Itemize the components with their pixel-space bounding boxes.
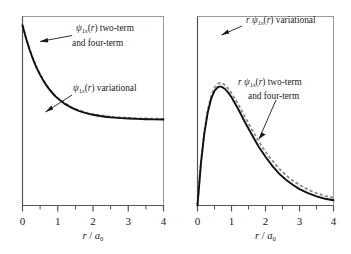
left-plot-panel: ψ1s(r) two-term and four-term ψ1s(r) var… [0,0,175,254]
right-x-major-ticks [198,206,334,212]
figure-root: ψ1s(r) two-term and four-term ψ1s(r) var… [0,0,351,254]
left-plot-svg: ψ1s(r) two-term and four-term ψ1s(r) var… [0,0,175,254]
left-xtick-1: 1 [55,215,61,227]
right-xtick-2: 2 [263,215,269,227]
right-anno-twoterm-line2: and four-term [248,91,300,101]
right-plot-panel: r ψ1s(r) variational r ψ1s(r) two-term a… [176,0,351,254]
left-xtick-2: 2 [90,215,96,227]
right-xtick-3: 3 [297,215,303,227]
left-x-major-ticks [23,206,164,212]
left-xtick-4: 4 [161,215,167,227]
right-x-axis-title: r / a0 [255,230,277,242]
left-anno-twoterm-line2: and four-term [72,38,124,48]
right-anno-twoterm-line1: r ψ1s(r) two-term [238,77,303,88]
left-xtick-3: 3 [126,215,132,227]
right-plot-frame [198,17,334,206]
left-x-axis-title: r / a0 [83,230,105,242]
left-xtick-0: 0 [20,215,26,227]
right-anno-variational-line1: r ψ1s(r) variational [246,15,316,26]
right-plot-svg: r ψ1s(r) variational r ψ1s(r) two-term a… [176,0,351,254]
right-xtick-4: 4 [331,215,337,227]
right-xtick-0: 0 [195,215,201,227]
right-xtick-1: 1 [229,215,235,227]
